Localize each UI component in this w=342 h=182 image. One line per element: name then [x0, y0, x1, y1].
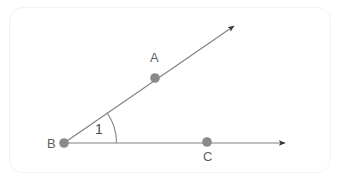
angle-label-1: 1 — [95, 122, 103, 136]
ray-BA — [64, 26, 234, 143]
geometry-figure — [0, 0, 342, 182]
point-label-a: A — [150, 51, 159, 64]
diagram-canvas: A B C 1 — [0, 0, 342, 182]
point-dot-B — [59, 138, 69, 148]
point-dot-A — [150, 73, 160, 83]
angle-arc — [107, 113, 117, 143]
point-label-c: C — [203, 150, 213, 163]
point-label-b: B — [47, 137, 56, 150]
point-dot-C — [202, 137, 212, 147]
